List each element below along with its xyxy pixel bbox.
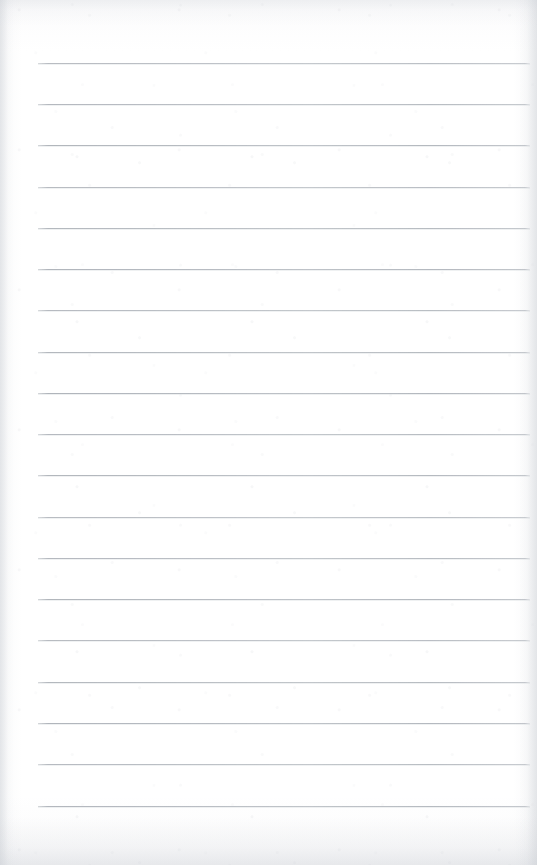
writing-area[interactable] [38,42,530,828]
notebook-page [0,0,537,865]
